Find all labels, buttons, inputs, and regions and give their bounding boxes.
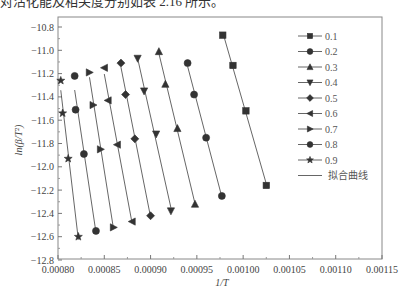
star-marker-icon	[64, 154, 72, 162]
hexagon-marker-icon	[80, 150, 87, 157]
data-series	[57, 32, 270, 240]
y-tick-label: −11.8	[31, 138, 54, 149]
triangle-up-marker-icon	[155, 48, 162, 55]
legend-label: 0.5	[325, 93, 338, 104]
diamond-marker-icon	[307, 95, 314, 102]
circle-marker-icon	[218, 192, 225, 199]
triangle-up-marker-icon	[174, 125, 181, 132]
series-0.6	[100, 64, 135, 225]
diamond-marker-icon	[122, 91, 130, 99]
legend-item-0.6: 0.6	[298, 108, 338, 119]
diamond-marker-icon	[131, 135, 139, 143]
y-tick-label: −11.6	[31, 115, 54, 126]
hexagon-marker-icon	[71, 72, 78, 79]
legend-label: 0.8	[325, 139, 338, 150]
series-0.2	[184, 60, 225, 200]
square-marker-icon	[220, 32, 226, 38]
legend: 0.10.20.30.40.50.60.70.80.9拟合曲线	[298, 31, 368, 182]
x-tick-label: 0.00080	[42, 264, 75, 275]
legend-item-0.7: 0.7	[298, 124, 338, 135]
square-marker-icon	[230, 62, 236, 68]
legend-item-0.8: 0.8	[298, 139, 338, 150]
legend-item-0.2: 0.2	[298, 46, 338, 57]
y-tick-label: −10.8	[31, 22, 54, 33]
triangle-right-marker-icon	[86, 69, 93, 76]
triangle-left-marker-icon	[307, 111, 313, 117]
triangle-down-marker-icon	[167, 208, 174, 215]
square-marker-icon	[307, 33, 312, 38]
diamond-marker-icon	[117, 59, 125, 67]
legend-item-0.3: 0.3	[298, 62, 338, 73]
series-0.1	[220, 32, 270, 189]
x-tick-label: 0.00090	[134, 264, 167, 275]
legend-label: 0.7	[325, 124, 338, 135]
star-marker-icon	[59, 109, 67, 117]
triangle-down-marker-icon	[134, 55, 141, 62]
x-tick-label: 0.00115	[366, 264, 398, 275]
legend-item-0.5: 0.5	[298, 93, 338, 104]
circle-marker-icon	[203, 134, 210, 141]
square-marker-icon	[243, 108, 249, 114]
legend-label: 拟合曲线	[328, 169, 368, 181]
x-tick-label: 0.00110	[320, 264, 352, 275]
y-tick-label: −11.2	[31, 68, 54, 79]
triangle-right-marker-icon	[110, 224, 117, 231]
square-marker-icon	[263, 182, 269, 188]
legend-item-0.1: 0.1	[298, 31, 338, 42]
y-tick-label: −12.6	[31, 231, 54, 242]
triangle-left-marker-icon	[100, 64, 107, 71]
triangle-left-marker-icon	[104, 97, 111, 104]
y-tick-label: −11.4	[31, 91, 54, 102]
triangle-down-marker-icon	[140, 88, 147, 95]
hexagon-marker-icon	[307, 142, 313, 148]
x-tick-label: 0.00100	[227, 264, 260, 275]
legend-item-fit: 拟合曲线	[298, 169, 368, 181]
y-axis: −10.8−11.0−11.2−11.4−11.6−11.8−12.0−12.2…	[31, 22, 62, 266]
y-tick-label: −11.0	[31, 45, 54, 56]
legend-label: 0.4	[325, 77, 338, 88]
series-0.7	[86, 69, 117, 231]
circle-marker-icon	[307, 49, 313, 55]
legend-item-0.9: 0.9	[298, 155, 338, 166]
x-tick-label: 0.00105	[273, 264, 306, 275]
hexagon-marker-icon	[72, 106, 79, 113]
y-tick-label: −12.0	[31, 161, 54, 172]
fit-line	[188, 66, 222, 197]
diamond-marker-icon	[147, 212, 155, 220]
legend-label: 0.1	[325, 31, 338, 42]
legend-item-0.4: 0.4	[298, 77, 338, 88]
hexagon-marker-icon	[92, 227, 99, 234]
x-axis-title: 1/T	[215, 277, 230, 288]
circle-marker-icon	[191, 91, 198, 98]
chart: −10.8−11.0−11.2−11.4−11.6−11.8−12.0−12.2…	[0, 0, 408, 301]
series-0.8	[71, 72, 99, 234]
triangle-down-marker-icon	[153, 131, 160, 138]
circle-marker-icon	[184, 60, 191, 67]
x-tick-label: 0.00095	[181, 264, 214, 275]
series-0.4	[134, 55, 175, 215]
star-marker-icon	[307, 156, 314, 163]
series-0.5	[117, 59, 155, 220]
x-tick-label: 0.00085	[88, 264, 121, 275]
legend-label: 0.2	[325, 46, 338, 57]
legend-label: 0.6	[325, 108, 338, 119]
series-0.3	[155, 48, 198, 208]
legend-label: 0.3	[325, 62, 338, 73]
x-axis: 0.000800.000850.000900.000950.001000.001…	[42, 255, 398, 275]
triangle-up-marker-icon	[191, 200, 198, 207]
legend-label: 0.9	[325, 155, 338, 166]
y-tick-label: −12.2	[31, 185, 54, 196]
y-axis-title: ln(β/T²)	[13, 124, 25, 155]
triangle-right-marker-icon	[307, 126, 313, 132]
triangle-up-marker-icon	[162, 80, 169, 87]
y-tick-label: −12.4	[31, 208, 54, 219]
series-0.9	[57, 76, 83, 240]
